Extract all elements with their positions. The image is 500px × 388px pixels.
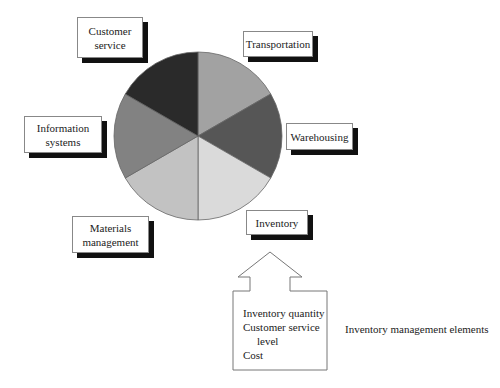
label-line: service: [94, 38, 125, 52]
label-customer-service: Customer service: [77, 17, 143, 58]
label-materials-management: Materials management: [72, 216, 149, 253]
element-item: level: [243, 334, 325, 348]
element-item: Cost: [243, 348, 325, 362]
label-line: systems: [46, 135, 81, 149]
label-inventory: Inventory: [246, 210, 308, 235]
label-transportation: Transportation: [243, 31, 313, 57]
label-line: Warehousing: [291, 130, 349, 144]
label-line: Customer: [89, 24, 132, 38]
label-information-systems: Information systems: [24, 116, 102, 153]
label-line: Transportation: [246, 37, 310, 51]
diagram-caption: Inventory management elements: [345, 323, 489, 335]
label-warehousing: Warehousing: [286, 123, 353, 150]
label-line: Inventory: [256, 216, 299, 230]
logistics-pie: [114, 52, 282, 220]
label-line: Information: [37, 121, 90, 135]
label-line: Materials: [90, 221, 132, 235]
inventory-elements-list: Inventory quantity Customer service leve…: [243, 306, 325, 362]
element-item: Inventory quantity: [243, 306, 325, 320]
element-item: Customer service: [243, 320, 325, 334]
label-line: management: [82, 235, 138, 249]
